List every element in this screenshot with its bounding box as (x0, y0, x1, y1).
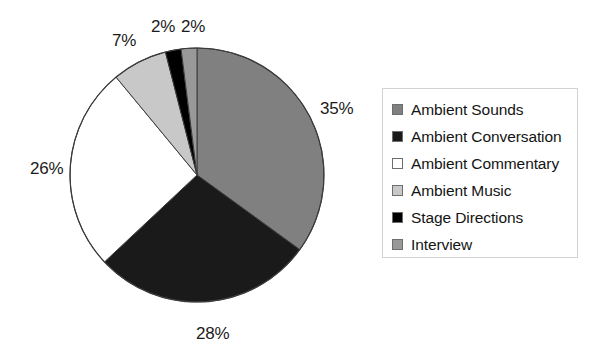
legend-swatch-icon (392, 239, 403, 250)
legend-swatch-icon (392, 104, 403, 115)
legend-swatch-icon (392, 212, 403, 223)
slice-percentage-label: 2% (181, 17, 205, 37)
legend-item: Stage Directions (392, 204, 577, 231)
slice-percentage-label: 28% (196, 324, 229, 344)
chart-legend: Ambient SoundsAmbient ConversationAmbien… (382, 88, 578, 258)
legend-swatch-icon (392, 131, 403, 142)
legend-item-label: Interview (411, 236, 472, 254)
slice-percentage-label: 35% (320, 99, 353, 119)
pie-chart-figure: 35%28%26%7%2%2% Ambient SoundsAmbient Co… (0, 0, 607, 357)
legend-swatch-icon (392, 158, 403, 169)
legend-item-label: Ambient Music (411, 182, 511, 200)
legend-item: Ambient Music (392, 177, 577, 204)
legend-item: Ambient Commentary (392, 150, 577, 177)
legend-swatch-icon (392, 185, 403, 196)
legend-item: Interview (392, 231, 577, 258)
legend-item-label: Ambient Conversation (411, 128, 562, 146)
slice-percentage-label: 7% (112, 31, 136, 51)
legend-item-label: Stage Directions (411, 209, 523, 227)
legend-item-label: Ambient Sounds (411, 101, 523, 119)
slice-percentage-label: 26% (30, 159, 63, 179)
legend-item: Ambient Conversation (392, 123, 577, 150)
slice-percentage-label: 2% (151, 17, 175, 37)
legend-item-label: Ambient Commentary (411, 155, 559, 173)
pie-slices-group (70, 48, 324, 302)
legend-item: Ambient Sounds (392, 96, 577, 123)
